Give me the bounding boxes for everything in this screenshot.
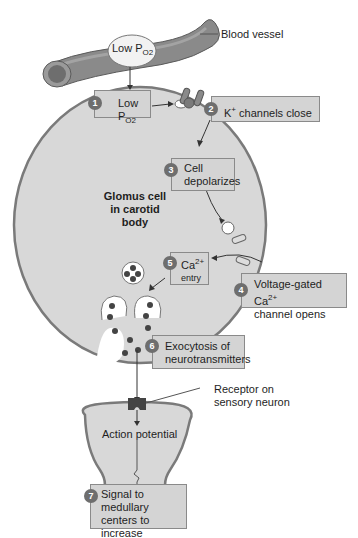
step-6-badge: 6 bbox=[145, 339, 159, 353]
step-7-badge: 7 bbox=[84, 489, 98, 503]
label-action-potential: Action potential bbox=[102, 428, 177, 441]
label-vessel-low-po2: Low PO2 bbox=[112, 42, 153, 59]
label-blood-vessel: Blood vessel bbox=[221, 28, 283, 41]
step-4-badge: 4 bbox=[234, 283, 248, 297]
step-6-box: Exocytosis of neurotransmitters bbox=[152, 335, 245, 369]
step-1-badge: 1 bbox=[88, 96, 102, 110]
step-5-box: Ca2+ entry bbox=[170, 252, 209, 285]
step-2-badge: 2 bbox=[204, 102, 218, 116]
label-glomus-cell: Glomus cell in carotid body bbox=[100, 190, 170, 229]
step-2-box: K+ channels close bbox=[211, 96, 320, 122]
label-receptor: Receptor on sensory neuron bbox=[214, 383, 290, 409]
step-3-badge: 3 bbox=[164, 163, 178, 177]
step-3-box: Cell depolarizes bbox=[171, 158, 235, 191]
step-1-box: Low PO2 bbox=[94, 90, 151, 118]
step-5-badge: 5 bbox=[163, 256, 177, 270]
step-4-box: Voltage-gated Ca2+ channel opens bbox=[241, 273, 347, 308]
step-7-box: Signal to medullary centers to increase … bbox=[90, 484, 187, 529]
